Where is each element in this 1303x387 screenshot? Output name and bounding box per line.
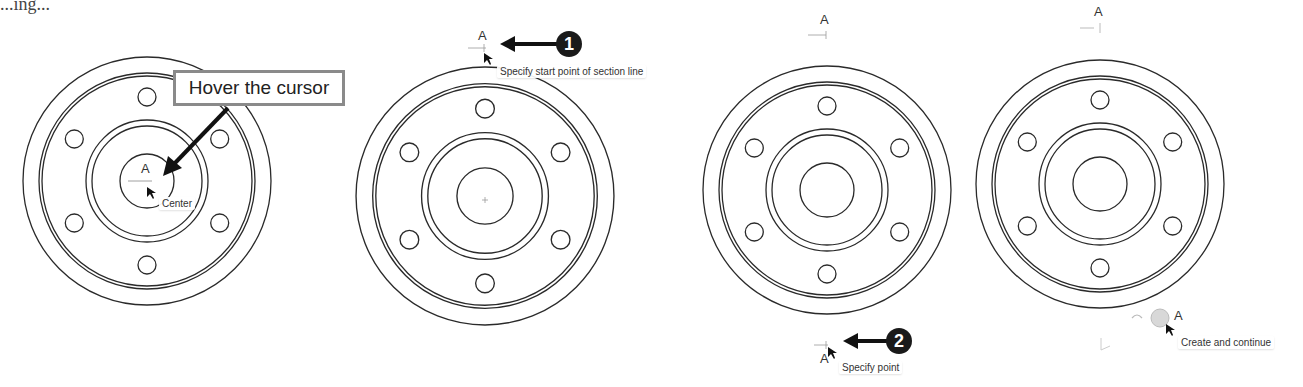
flange-drawings <box>0 0 1303 387</box>
undo-icon <box>1132 315 1142 318</box>
section-label-a: A <box>141 161 150 176</box>
flange-drawing-2 <box>356 67 614 325</box>
flange-drawing-3 <box>703 66 951 314</box>
step-badge-1: 1 <box>556 31 582 57</box>
section-line-steps-figure: ...ing... Hover the cursor A Center A 1 … <box>0 0 1303 387</box>
create-continue-tooltip: Create and continue <box>1178 336 1274 349</box>
start-point-tooltip: Specify start point of section line <box>497 65 646 78</box>
header-fragment: ...ing... <box>0 0 50 15</box>
specify-point-tooltip: Specify point <box>839 361 902 374</box>
section-label-a-top: A <box>1094 4 1103 19</box>
section-label-a: A <box>478 28 487 43</box>
flange-drawing-4 <box>976 60 1224 308</box>
hover-callout: Hover the cursor <box>173 70 345 106</box>
section-label-a-bottom: A <box>1174 308 1183 323</box>
section-label-a-bottom: A <box>820 351 829 366</box>
section-label-a-top: A <box>820 12 829 27</box>
center-tooltip: Center <box>159 197 195 210</box>
cursor-icon <box>147 187 156 199</box>
step-badge-2: 2 <box>886 328 912 354</box>
